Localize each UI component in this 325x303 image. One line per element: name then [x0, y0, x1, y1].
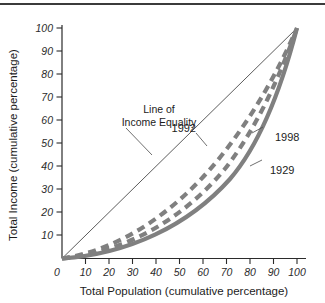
y-tick-50: 50	[41, 137, 53, 149]
y-tick-0: 0	[54, 266, 60, 278]
x-tick-30: 30	[127, 266, 139, 278]
x-axis-title: Total Population (cumulative percentage)	[80, 285, 289, 297]
y-tick-20: 20	[40, 206, 53, 218]
y-tick-80: 80	[41, 68, 53, 80]
y-axis-ticks	[57, 28, 63, 235]
y-tick-70: 70	[41, 91, 53, 103]
axis-lines	[62, 25, 306, 259]
y-tick-40: 40	[41, 160, 53, 172]
curve-label-1992: 1992	[172, 122, 196, 134]
curve-label-1929: 1929	[270, 164, 294, 176]
x-tick-labels: 10 20 30 40 50 60 70 80 90 100	[80, 266, 306, 278]
curve-label-1998: 1998	[275, 131, 299, 143]
y-tick-90: 90	[41, 45, 53, 57]
y-axis-title: Total Income (cumulative percentage)	[7, 49, 19, 241]
leader-line-1992	[196, 133, 207, 146]
equality-line	[62, 28, 297, 259]
x-tick-20: 20	[102, 266, 115, 278]
y-tick-10: 10	[41, 229, 53, 241]
y-tick-labels: 100 90 80 70 60 50 40 30 20 10 0	[35, 22, 60, 278]
x-tick-100: 100	[288, 266, 306, 278]
leader-line-equality	[126, 128, 152, 155]
x-tick-60: 60	[197, 266, 209, 278]
x-axis-ticks	[86, 259, 298, 265]
x-tick-40: 40	[150, 266, 162, 278]
lorenz-curve-chart: 100 90 80 70 60 50 40 30 20 10 0 10 20 3…	[0, 0, 325, 303]
x-tick-50: 50	[174, 266, 186, 278]
x-tick-90: 90	[268, 266, 280, 278]
y-tick-60: 60	[41, 114, 53, 126]
y-tick-100: 100	[35, 22, 53, 34]
x-tick-10: 10	[80, 266, 92, 278]
lorenz-curve-figure: 100 90 80 70 60 50 40 30 20 10 0 10 20 3…	[0, 0, 325, 303]
x-tick-80: 80	[244, 266, 256, 278]
leader-line-1929	[250, 160, 262, 166]
x-tick-70: 70	[221, 266, 233, 278]
y-tick-30: 30	[41, 183, 53, 195]
equality-annotation-line1: Line of	[143, 103, 175, 115]
